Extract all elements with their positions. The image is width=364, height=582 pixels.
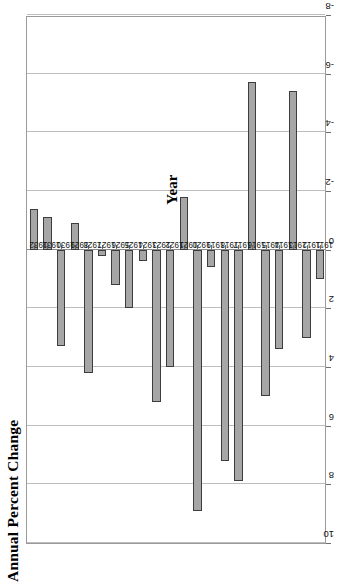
bar-1918: [221, 250, 229, 461]
bar-1916: [248, 82, 256, 249]
bar-1913: [289, 91, 297, 249]
value-tick-text: -2: [326, 177, 334, 188]
x-axis-title: Year: [164, 175, 181, 205]
value-axis: 1086420-2-4-6-8: [326, 16, 360, 544]
value-tick-text: 10: [323, 529, 334, 540]
bar-1919: [207, 250, 215, 268]
value-tick-text: -8: [326, 1, 334, 12]
value-tick-text: -4: [326, 118, 334, 129]
bar-1927: [98, 250, 106, 256]
value-tick-text: 6: [329, 412, 334, 423]
value-tick-0: [326, 250, 331, 251]
bar-1926: [111, 250, 119, 285]
bar-1924: [139, 250, 147, 262]
bar-1930: [57, 250, 65, 347]
bar-1925: [125, 250, 133, 309]
bar-1912: [302, 250, 310, 338]
bar-1911: [316, 250, 324, 279]
value-tick--8: [326, 15, 331, 16]
bar-layer: [27, 17, 325, 543]
bar-1917: [234, 250, 242, 482]
plot-area: 1911191219131914191519161917191819191920…: [26, 16, 326, 544]
bar-1922: [166, 250, 174, 367]
value-tick--2: [326, 191, 331, 192]
value-tick--6: [326, 74, 331, 75]
bar-1914: [275, 250, 283, 350]
rotated-figure-container: Annual Percent Change 191119121913191419…: [0, 0, 364, 582]
bar-1928: [84, 250, 92, 373]
chart-page: Annual Percent Change 191119121913191419…: [0, 0, 364, 582]
bar-1929: [71, 223, 79, 249]
value-tick-text: -6: [326, 60, 334, 71]
value-tick-4: [326, 367, 331, 368]
bar-1931: [43, 217, 51, 249]
bar-1920: [193, 250, 201, 511]
value-tick-text: 8: [329, 470, 334, 481]
bar-1923: [152, 250, 160, 403]
value-tick-text: 4: [329, 353, 334, 364]
value-tick--4: [326, 132, 331, 133]
value-tick-8: [326, 484, 331, 485]
bar-1932: [30, 209, 38, 250]
value-tick-text: 0: [329, 236, 334, 247]
value-tick-10: [326, 543, 331, 544]
chart-title: Annual Percent Change: [4, 0, 22, 582]
gridline--8: [27, 14, 325, 15]
value-tick-6: [326, 426, 331, 427]
bar-1915: [261, 250, 269, 397]
value-tick-2: [326, 308, 331, 309]
bar-1921: [180, 197, 188, 250]
value-tick-text: 2: [329, 294, 334, 305]
